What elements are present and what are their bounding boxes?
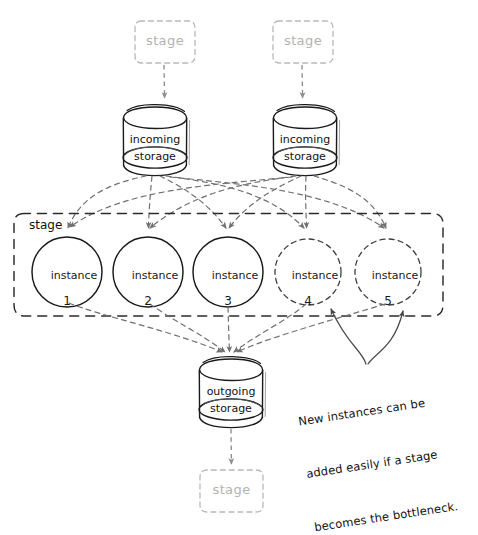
arrow-stage1-to-incoming1: [164, 65, 165, 98]
incoming-storage-label-2-line2: storage: [265, 151, 345, 163]
instance-4-number: 4: [268, 295, 348, 308]
annotation-text: New instances can be added easily if a s…: [292, 357, 464, 535]
stage-group-label: stage: [29, 219, 62, 232]
instance-5-name: instance: [372, 269, 419, 282]
instance-2-number: 2: [108, 295, 188, 308]
instance-3-name: instance: [212, 269, 259, 282]
instance-4-label: instance 4: [268, 258, 348, 330]
incoming-storage-label-2-line1: incoming: [265, 134, 345, 146]
annotation-line-1: New instances can be: [297, 392, 443, 431]
outgoing-storage-label-line1: outgoing: [191, 386, 271, 398]
arrow-stage2-to-incoming2: [302, 65, 303, 98]
instance-2-name: instance: [132, 269, 179, 282]
top-stage-label-2: stage: [273, 34, 333, 48]
incoming-storage-label-1-line2: storage: [115, 151, 195, 163]
instance-1-number: 1: [27, 295, 107, 308]
bottom-stage-label: stage: [201, 483, 262, 497]
instance-3-number: 3: [188, 295, 268, 308]
top-stage-label-1: stage: [135, 34, 195, 48]
instance-1-name: instance: [51, 269, 98, 282]
instance-4-name: instance: [292, 269, 339, 282]
instance-5-number: 5: [348, 295, 428, 308]
instance-2-label: instance 2: [108, 258, 188, 330]
instance-1-label: instance 1: [27, 258, 107, 330]
incoming-storage-label-1-line1: incoming: [115, 134, 195, 146]
annotation-line-3: becomes the bottleneck.: [313, 497, 459, 535]
outgoing-storage-label-line2: storage: [191, 403, 271, 415]
instance-3-label: instance 3: [188, 258, 268, 330]
instance-5-label: instance 5: [348, 258, 428, 330]
annotation-line-2: added easily if a stage: [305, 445, 451, 484]
